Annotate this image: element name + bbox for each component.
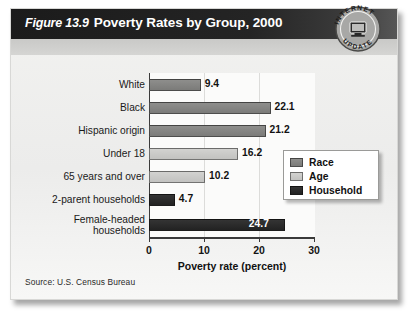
x-tick-label: 30 [308, 244, 320, 256]
bar[interactable] [149, 125, 266, 137]
x-tick-label: 10 [198, 244, 210, 256]
x-tick-label: 0 [146, 244, 152, 256]
bar-value-label: 16.2 [242, 147, 262, 158]
x-tick [204, 237, 205, 242]
bar[interactable] [149, 171, 205, 183]
category-label: Female-headed households [74, 214, 145, 236]
chart-area: White9.4Black22.1Hispanic origin21.2Unde… [11, 55, 397, 299]
legend-label-age: Age [309, 171, 328, 182]
category-label: White [119, 79, 145, 90]
x-axis-line [149, 237, 315, 239]
page-title: Figure 13.9Poverty Rates by Group, 2000 [25, 15, 282, 30]
bar-value-label: 24.7 [249, 218, 269, 229]
bar-value-label: 10.2 [209, 170, 229, 181]
legend-item-race: Race [290, 155, 372, 169]
bar[interactable] [149, 102, 271, 114]
figure-number: Figure 13.9 [25, 16, 89, 30]
bar-value-label: 22.1 [275, 101, 295, 112]
category-label: 2-parent households [52, 194, 145, 205]
x-tick [149, 237, 150, 242]
legend-swatch-household [290, 186, 303, 195]
legend-item-age: Age [290, 169, 372, 183]
figure-root: Figure 13.9Poverty Rates by Group, 2000 … [0, 0, 413, 320]
bar[interactable] [149, 194, 175, 206]
bar-row: Hispanic origin21.2 [11, 123, 397, 140]
bar-value-label: 21.2 [270, 124, 290, 135]
x-axis-label: Poverty rate (percent) [149, 260, 315, 272]
x-tick [314, 237, 315, 242]
category-label: Black [120, 102, 145, 113]
bar-value-label: 4.7 [179, 193, 193, 204]
chart-legend: Race Age Household [283, 150, 379, 200]
bar-row: Black22.1 [11, 100, 397, 117]
bar[interactable] [149, 79, 201, 91]
x-tick [259, 237, 260, 242]
figure-title: Poverty Rates by Group, 2000 [94, 15, 283, 30]
bar-value-label: 9.4 [205, 78, 219, 89]
bar[interactable] [149, 148, 238, 160]
category-label: 65 years and over [63, 171, 145, 182]
legend-label-household: Household [309, 185, 362, 196]
category-label: Hispanic origin [78, 125, 145, 136]
legend-swatch-race [290, 158, 303, 167]
category-label: Under 18 [103, 148, 145, 159]
source-note: Source: U.S. Census Bureau [25, 277, 135, 287]
legend-item-household: Household [290, 183, 372, 197]
internet-update-badge[interactable]: INTERNET UPDATE [330, 2, 386, 56]
x-tick-label: 20 [253, 244, 265, 256]
legend-label-race: Race [309, 157, 334, 168]
bar-row: White9.4 [11, 77, 397, 94]
bar-row: Female-headed households24.7 [11, 217, 397, 234]
legend-swatch-age [290, 172, 303, 181]
internet-update-badge-icon: INTERNET UPDATE [330, 2, 386, 56]
